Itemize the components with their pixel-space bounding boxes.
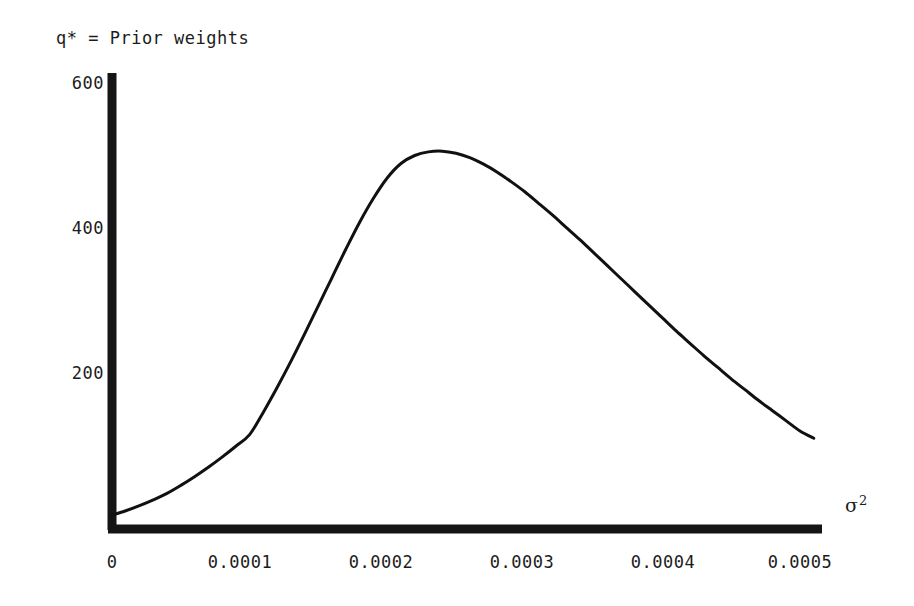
sigma-symbol: σ (845, 494, 858, 516)
sigma-exponent: 2 (859, 493, 867, 508)
chart-figure: q* = Prior weights 600 400 200 0 0.0001 … (0, 0, 914, 606)
x-tick-label-2: 0.0002 (321, 552, 441, 572)
y-tick-label-600: 600 (38, 73, 104, 93)
plot-area (0, 0, 914, 606)
x-axis-title: σ2 (845, 494, 867, 516)
x-tick-label-1: 0.0001 (180, 552, 300, 572)
x-tick-label-0: 0 (52, 552, 172, 572)
data-curve-prior-weights (112, 151, 814, 515)
x-tick-label-5: 0.0005 (740, 552, 860, 572)
x-tick-label-4: 0.0004 (603, 552, 723, 572)
y-tick-label-400: 400 (38, 218, 104, 238)
x-tick-label-3: 0.0003 (462, 552, 582, 572)
y-tick-label-200: 200 (38, 363, 104, 383)
